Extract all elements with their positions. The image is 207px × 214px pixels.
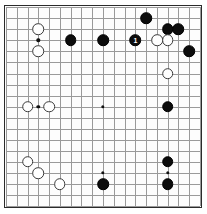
stone-black[interactable] xyxy=(140,12,152,24)
stone-white[interactable] xyxy=(162,68,174,80)
stone-black[interactable] xyxy=(97,178,109,190)
stone-white[interactable] xyxy=(43,101,55,113)
stone-black[interactable] xyxy=(173,24,185,36)
stone-black[interactable] xyxy=(183,46,195,58)
stone-white[interactable] xyxy=(22,156,34,168)
stone-white[interactable] xyxy=(33,167,45,179)
stone-black[interactable] xyxy=(162,101,174,113)
stone-white[interactable] xyxy=(22,101,34,113)
stone-black[interactable] xyxy=(162,178,174,190)
go-board-screenshot: 1 xyxy=(0,0,207,214)
stone-white[interactable] xyxy=(54,178,66,190)
stone-black[interactable] xyxy=(97,35,109,47)
stone-white[interactable] xyxy=(33,46,45,58)
stone-black-numbered[interactable]: 1 xyxy=(130,35,142,47)
stone-white[interactable] xyxy=(33,24,45,36)
stone-layer[interactable]: 1 xyxy=(0,0,207,214)
stone-black[interactable] xyxy=(162,156,174,168)
stone-white[interactable] xyxy=(162,35,174,47)
stone-black[interactable] xyxy=(65,35,77,47)
stone-move-number: 1 xyxy=(133,37,137,44)
